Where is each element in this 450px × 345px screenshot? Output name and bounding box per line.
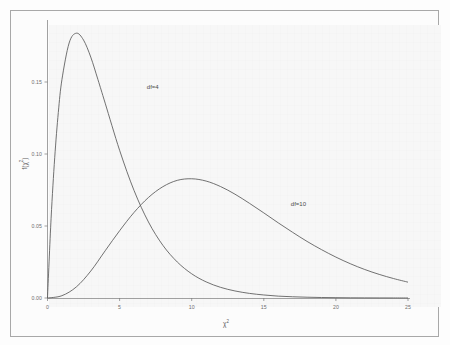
x-tick-label: 25 <box>398 304 418 310</box>
density-curve-df10 <box>48 179 409 298</box>
y-axis-title: f(χ2) <box>21 144 28 184</box>
y-tick-label: 0.15 <box>14 79 42 85</box>
y-axis-tick-marks <box>45 82 48 298</box>
chi-square-distribution-figure: 0.000.050.100.15 0510152025 f(χ2) χ2 df=… <box>0 0 450 345</box>
x-tick-label: 15 <box>254 304 274 310</box>
x-axis-title: χ2 <box>206 320 246 327</box>
chart-canvas <box>0 0 450 345</box>
density-curves-group <box>48 33 409 298</box>
curve-label-df-10: df=10 <box>286 201 310 207</box>
y-tick-label: 0.05 <box>14 223 42 229</box>
x-tick-label: 20 <box>326 304 346 310</box>
y-tick-label: 0.00 <box>14 295 42 301</box>
x-tick-label: 5 <box>110 304 130 310</box>
y-tick-label: 0.10 <box>14 151 42 157</box>
curve-label-df-4: df=4 <box>141 84 165 90</box>
x-tick-label: 10 <box>182 304 202 310</box>
x-tick-label: 0 <box>38 304 58 310</box>
y-axis-title-text: f(χ2) <box>21 158 28 170</box>
x-axis-title-text: χ2 <box>223 320 229 327</box>
density-curve-df4 <box>48 33 409 298</box>
